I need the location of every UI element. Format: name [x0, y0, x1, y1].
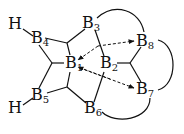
atom-b5: B5: [31, 87, 49, 105]
atom-b8: B8: [136, 33, 154, 51]
atom-h-top: H: [8, 16, 22, 32]
atom-b2: B2: [100, 55, 118, 73]
atom-b4: B4: [31, 30, 49, 48]
atom-h-bottom: H: [8, 100, 22, 116]
atom-b3: B3: [82, 15, 100, 33]
borane-structure-diagram: H B4 B3 B8 B1 B2 B7 H B5 B6: [0, 0, 184, 134]
atom-b7: B7: [136, 81, 154, 99]
atom-b6: B6: [84, 100, 102, 118]
atom-b1: B1: [65, 55, 83, 73]
